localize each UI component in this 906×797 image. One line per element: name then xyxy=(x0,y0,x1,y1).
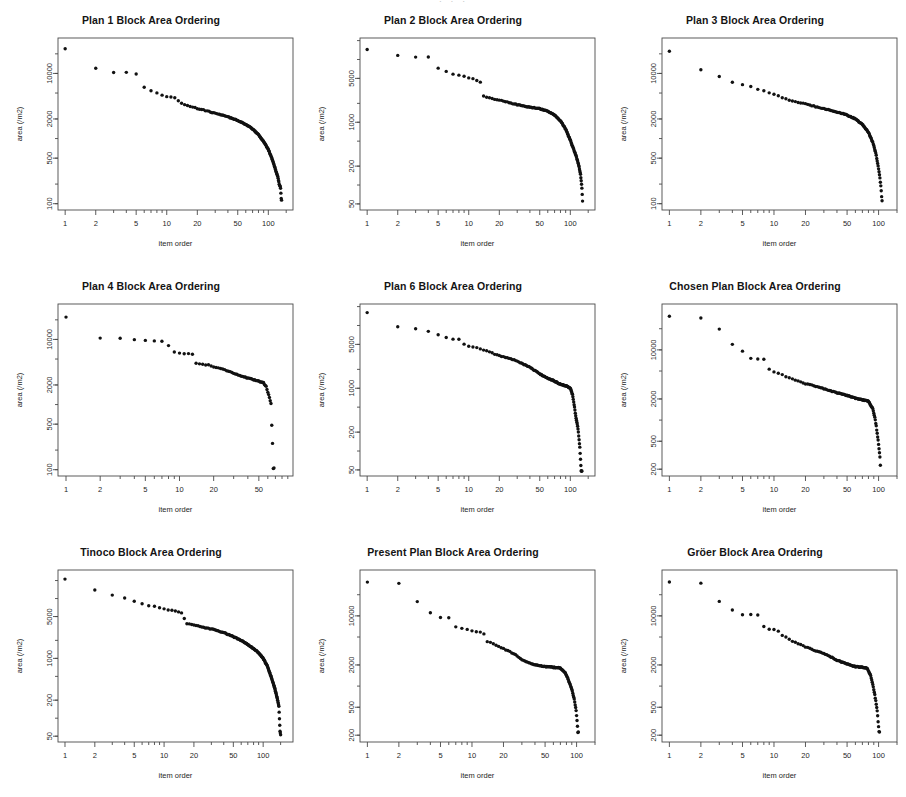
data-point xyxy=(878,173,881,176)
data-point xyxy=(699,68,702,71)
x-tick-label: 1 xyxy=(63,219,67,228)
x-tick-label: 50 xyxy=(536,219,544,228)
x-tick-label: 2 xyxy=(98,485,102,494)
x-tick-label: 2 xyxy=(94,219,98,228)
data-point xyxy=(149,89,152,92)
x-tick-label: 20 xyxy=(495,485,503,494)
x-tick-label: 100 xyxy=(564,485,577,494)
x-tick-label: 20 xyxy=(801,219,809,228)
data-point xyxy=(784,97,787,100)
y-tick-label: 10000 xyxy=(45,329,54,350)
plot-frame xyxy=(360,570,595,742)
data-point xyxy=(791,640,794,643)
scatter-plot-canvas: 125102050100500200010000item orderarea (… xyxy=(0,266,302,532)
x-tick-label: 1 xyxy=(667,485,671,494)
y-tick-label: 200 xyxy=(347,160,356,173)
data-point xyxy=(579,464,582,467)
x-tick-label: 5 xyxy=(436,485,440,494)
data-point xyxy=(668,580,671,583)
data-point xyxy=(98,336,101,339)
y-axis-title: area (/m2) xyxy=(619,638,628,673)
data-point xyxy=(118,337,121,340)
x-axis-title: item order xyxy=(159,239,193,248)
x-tick-label: 10 xyxy=(465,485,473,494)
data-point xyxy=(267,393,270,396)
y-tick-label: 100 xyxy=(45,463,54,476)
data-point xyxy=(479,347,482,350)
x-tick-label: 10 xyxy=(770,219,778,228)
x-tick-label: 1 xyxy=(667,219,671,228)
x-tick-label: 100 xyxy=(564,219,577,228)
data-point xyxy=(194,361,197,364)
data-point xyxy=(183,617,186,620)
data-point xyxy=(578,452,581,455)
x-axis-title: item order xyxy=(461,505,495,514)
plot-frame xyxy=(662,304,897,476)
data-point xyxy=(272,466,275,469)
x-tick-label: 1 xyxy=(667,751,671,760)
x-tick-label: 20 xyxy=(209,485,217,494)
data-point xyxy=(479,80,482,83)
data-point xyxy=(784,375,787,378)
data-point xyxy=(93,588,96,591)
data-point xyxy=(573,405,576,408)
data-point xyxy=(451,337,454,340)
y-tick-label: 200 xyxy=(45,694,54,707)
plot-panel-2: Plan 2 Block Area Ordering12510205010050… xyxy=(302,0,604,266)
data-point xyxy=(63,577,66,580)
y-tick-label: 200 xyxy=(649,463,658,476)
scatter-plot-canvas: 125102050100100500200010000item orderare… xyxy=(0,0,302,266)
data-point xyxy=(879,463,882,466)
data-point xyxy=(125,71,128,74)
x-tick-label: 5 xyxy=(436,219,440,228)
data-point xyxy=(577,438,580,441)
data-point-series xyxy=(365,48,584,203)
x-tick-label: 20 xyxy=(801,485,809,494)
data-point xyxy=(160,340,163,343)
data-point xyxy=(877,447,880,450)
data-point xyxy=(877,725,880,728)
data-point xyxy=(177,99,180,102)
data-point xyxy=(580,179,583,182)
data-point xyxy=(143,86,146,89)
data-point xyxy=(111,593,114,596)
x-tick-label: 10 xyxy=(160,751,168,760)
data-point xyxy=(134,72,137,75)
y-tick-label: 2000 xyxy=(45,377,54,394)
data-point xyxy=(875,706,878,709)
data-point xyxy=(467,76,470,79)
x-tick-label: 100 xyxy=(872,751,885,760)
data-point xyxy=(396,54,399,57)
data-point xyxy=(577,434,580,437)
x-axis-title: item order xyxy=(763,505,797,514)
data-point xyxy=(147,604,150,607)
data-point xyxy=(112,71,115,74)
x-axis-title: item order xyxy=(763,771,797,780)
data-point xyxy=(278,724,281,727)
x-tick-label: 2 xyxy=(396,219,400,228)
data-point xyxy=(397,582,400,585)
data-point xyxy=(187,352,190,355)
data-point xyxy=(166,608,169,611)
y-tick-label: 2000 xyxy=(649,657,658,674)
data-point xyxy=(573,697,576,700)
data-point xyxy=(191,353,194,356)
data-point xyxy=(489,641,492,644)
data-point xyxy=(183,352,186,355)
y-tick-label: 500 xyxy=(649,701,658,714)
data-point xyxy=(879,181,882,184)
data-point xyxy=(427,55,430,58)
y-axis-title: area (/m2) xyxy=(619,372,628,407)
data-point xyxy=(872,685,875,688)
data-point xyxy=(280,198,283,201)
data-point xyxy=(269,402,272,405)
scatter-plot-canvas: 125102050100200500200010000item orderare… xyxy=(604,532,906,797)
y-tick-label: 10000 xyxy=(45,63,54,84)
x-tick-label: 20 xyxy=(193,219,201,228)
x-tick-label: 10 xyxy=(163,219,171,228)
y-tick-label: 10000 xyxy=(649,63,658,84)
y-axis-title: area (/m2) xyxy=(15,106,24,141)
data-point xyxy=(462,342,465,345)
scatter-plot-canvas: 125102050100200500200010000item orderare… xyxy=(302,532,604,797)
x-tick-label: 10 xyxy=(770,485,778,494)
